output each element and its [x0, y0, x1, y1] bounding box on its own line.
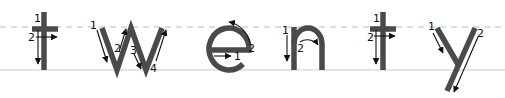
- stroke-order-diagram: 1 2 1 2 3 4 1 2 1 2 1 2: [0, 0, 505, 98]
- stroke-number: 2: [477, 27, 484, 40]
- stroke-number: 1: [34, 12, 41, 25]
- stroke-number: 2: [114, 42, 121, 55]
- letter-t-second: 1 2: [367, 12, 396, 70]
- letter-t-first: 1 2: [28, 12, 58, 70]
- stroke-number: 3: [130, 44, 137, 57]
- letter-y: 1 2: [428, 20, 484, 92]
- stroke-number: 2: [297, 42, 304, 55]
- stroke-number: 1: [373, 12, 380, 25]
- stroke-number: 1: [234, 50, 241, 63]
- letter-e: 1 2: [209, 22, 255, 70]
- stroke-number: 1: [90, 19, 97, 32]
- letter-n: 1 2: [282, 24, 322, 70]
- stroke-number: 1: [282, 24, 289, 37]
- stroke-number: 2: [28, 31, 35, 44]
- stroke-number: 1: [428, 20, 435, 33]
- stroke-number: 4: [150, 62, 157, 75]
- stroke-number: 2: [248, 42, 255, 55]
- stroke-number: 2: [367, 31, 374, 44]
